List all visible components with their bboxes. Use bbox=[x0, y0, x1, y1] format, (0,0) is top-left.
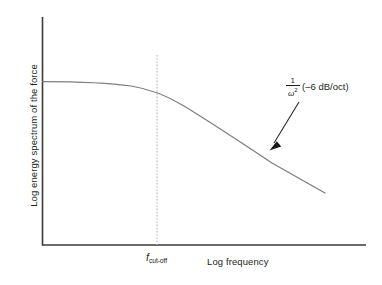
slope-annotation: 1 ω2 (–6 dB/oct) bbox=[286, 76, 349, 97]
fraction-denominator: ω2 bbox=[286, 86, 300, 97]
spectrum-curve bbox=[43, 82, 326, 194]
annotation-arrow-shaft bbox=[274, 102, 299, 143]
figure-container: Log energy spectrum of the force Log fre… bbox=[0, 0, 382, 285]
cutoff-frequency-label: fcut-off bbox=[146, 251, 167, 263]
plot-svg bbox=[0, 0, 382, 285]
y-axis-label: Log energy spectrum of the force bbox=[28, 36, 39, 236]
omega-exponent: 2 bbox=[294, 87, 297, 93]
cutoff-subscript: cut-off bbox=[149, 257, 167, 264]
one-over-omega-squared-fraction: 1 ω2 bbox=[286, 77, 300, 98]
annotation-arrow-head bbox=[270, 141, 282, 150]
x-axis-label: Log frequency bbox=[207, 256, 269, 267]
slope-decibel-text: (–6 dB/oct) bbox=[302, 81, 348, 92]
fraction-numerator: 1 bbox=[289, 77, 297, 86]
